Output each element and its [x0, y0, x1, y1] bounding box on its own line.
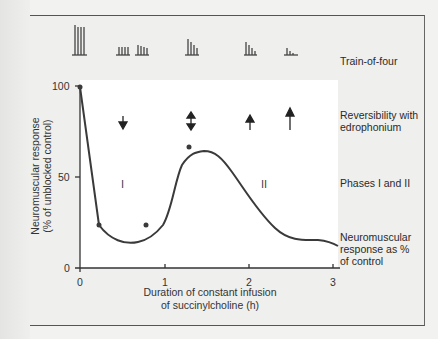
tof-group-4 — [185, 39, 199, 55]
phase-2-label: II — [261, 178, 267, 190]
arrow-up-icon — [246, 115, 254, 130]
legend-phases: Phases I and II — [340, 177, 410, 189]
legend-train-of-four: Train-of-four — [340, 55, 397, 67]
y-axis-label: Neuromuscular response (% of unblocked c… — [29, 101, 53, 251]
legend-response: Neuromuscular response as % of control — [340, 231, 411, 267]
x-axis-label-line1: Duration of constant infusion — [100, 286, 320, 299]
legend-response-line2: response as % — [340, 243, 411, 255]
x-tick-3: 3 — [330, 276, 336, 288]
y-tick-100: 100 — [52, 80, 70, 92]
tof-group-3 — [135, 45, 149, 55]
response-curve — [80, 87, 338, 246]
reversibility-arrows — [119, 108, 294, 130]
y-tick-50: 50 — [58, 171, 70, 183]
legend-reversibility-line1: Reversibility with — [340, 109, 418, 121]
phase-1-label: I — [121, 178, 124, 190]
legend-reversibility: Reversibility with edrophonium — [340, 109, 418, 133]
train-of-four-icons — [72, 25, 298, 55]
tof-group-5 — [244, 42, 257, 55]
arrow-both-icon — [187, 112, 195, 130]
axes — [75, 86, 340, 272]
tof-group-2 — [116, 47, 130, 55]
tof-group-1 — [72, 25, 87, 55]
y-axis-label-line2: (% of unblocked control) — [41, 101, 53, 251]
curve-markers — [78, 85, 192, 228]
arrow-down-icon — [119, 116, 127, 129]
y-axis-label-line1: Neuromuscular response — [29, 101, 41, 251]
legend-response-line3: of control — [340, 255, 411, 267]
x-axis-label: Duration of constant infusion of succiny… — [100, 286, 320, 312]
x-axis-label-line2: of succinylcholine (h) — [100, 299, 320, 312]
arrow-up-large-icon — [286, 108, 294, 130]
y-tick-0: 0 — [64, 262, 70, 274]
legend-response-line1: Neuromuscular — [340, 231, 411, 243]
tof-group-6 — [284, 48, 298, 55]
x-tick-0: 0 — [77, 276, 83, 288]
legend-reversibility-line2: edrophonium — [340, 121, 418, 133]
